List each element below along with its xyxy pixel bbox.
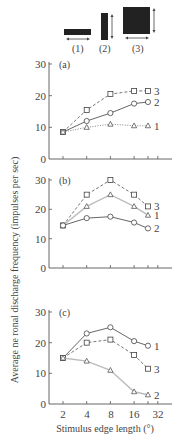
square-marker xyxy=(132,88,137,93)
y-tick-30: 30 xyxy=(35,306,47,318)
circle-marker xyxy=(145,99,150,104)
x-tick-32: 32 xyxy=(153,408,164,420)
triangle-marker xyxy=(108,192,113,197)
y-tick-10: 10 xyxy=(35,233,47,245)
series-3: 3 xyxy=(61,85,160,135)
y-tick-20: 20 xyxy=(35,337,47,349)
circle-marker xyxy=(84,216,89,221)
circle-marker xyxy=(84,118,89,123)
series-label: 1 xyxy=(154,340,160,352)
square-marker xyxy=(108,178,113,183)
y-tick-20: 20 xyxy=(35,203,47,215)
y-tick-30: 30 xyxy=(35,58,47,70)
square-marker xyxy=(84,107,89,112)
square-marker xyxy=(84,340,89,345)
y-tick-10: 10 xyxy=(35,367,47,379)
circle-marker xyxy=(132,220,137,225)
chart-figure: (1) (2) (3) Average ne ronal discharge f… xyxy=(0,0,185,446)
series-label: 1 xyxy=(154,120,160,132)
triangle-marker xyxy=(132,123,137,128)
series-1: 1 xyxy=(60,325,159,361)
series-label: 2 xyxy=(154,389,160,401)
square-marker xyxy=(132,192,137,197)
circle-marker xyxy=(84,331,89,336)
panel-label: (a) xyxy=(59,59,70,71)
square-marker xyxy=(145,204,150,209)
circle-marker xyxy=(145,226,150,231)
circle-marker xyxy=(145,343,150,348)
y-tick-20: 20 xyxy=(35,90,47,102)
triangle-marker xyxy=(108,121,113,126)
series-label: 2 xyxy=(154,96,160,108)
triangle-marker xyxy=(84,125,89,130)
square-marker xyxy=(84,192,89,197)
stimulus-1-icon: (1) xyxy=(64,29,91,55)
series-1: 1 xyxy=(60,120,159,134)
series-label: 2 xyxy=(154,222,160,234)
x-tick-4: 4 xyxy=(84,408,90,420)
x-tick-8: 8 xyxy=(108,408,114,420)
y-tick-10: 10 xyxy=(35,121,47,133)
stimulus-1-label: (1) xyxy=(72,43,84,55)
series-label: 3 xyxy=(154,363,160,375)
series-2: 2 xyxy=(60,355,159,401)
circle-marker xyxy=(108,214,113,219)
x-axis-title: Stimulus edge length (°) xyxy=(56,423,154,435)
panel-b: 0102030(b)312 xyxy=(35,174,172,274)
circle-marker xyxy=(132,101,137,106)
y-tick-0: 0 xyxy=(41,262,47,274)
triangle-marker xyxy=(145,123,150,128)
panel-c: 0102030(c)132 xyxy=(35,306,172,410)
stimulus-2-icon: (2) xyxy=(99,13,114,55)
series-label: 1 xyxy=(154,209,160,221)
square-marker xyxy=(145,88,150,93)
y-axis-title: Average ne ronal discharge frequency (im… xyxy=(9,157,21,383)
x-tick-16: 16 xyxy=(129,408,141,420)
square-marker xyxy=(145,366,150,371)
circle-marker xyxy=(60,223,65,228)
panel-label: (b) xyxy=(59,175,71,187)
y-tick-0: 0 xyxy=(41,153,47,165)
x-tick-2: 2 xyxy=(60,408,66,420)
square-marker xyxy=(108,92,113,97)
circle-marker xyxy=(108,110,113,115)
panel-a: 0102030(a)321 xyxy=(35,58,172,165)
circle-marker xyxy=(132,339,137,344)
series-3: 3 xyxy=(61,178,160,228)
panel-label: (c) xyxy=(59,307,70,319)
stimulus-icons: (1) (2) (3) xyxy=(64,7,156,55)
x-tick-labels: 2 4 8 16 32 xyxy=(60,408,163,420)
series-2: 2 xyxy=(60,214,159,234)
square-marker xyxy=(108,337,113,342)
square-marker xyxy=(132,352,137,357)
stimulus-3-icon: (3) xyxy=(123,7,156,55)
stimulus-3-label: (3) xyxy=(132,43,144,55)
y-tick-30: 30 xyxy=(35,174,47,186)
stimulus-2-label: (2) xyxy=(99,43,111,55)
circle-marker xyxy=(108,325,113,330)
series-2: 2 xyxy=(60,96,159,135)
y-tick-0: 0 xyxy=(41,398,47,410)
panels: 0102030(a)3210102030(b)3120102030(c)132 xyxy=(35,58,172,410)
